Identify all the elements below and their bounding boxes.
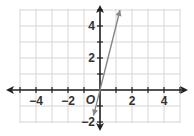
y-tick-label: −2 — [81, 115, 95, 129]
y-tick-label: 4 — [88, 19, 95, 33]
line-arrow-up-icon — [116, 10, 122, 17]
coordinate-plane: −4−22442−2O — [0, 0, 194, 136]
x-tick-label: −2 — [61, 94, 75, 108]
x-tick-label: −4 — [29, 94, 43, 108]
y-tick-label: 2 — [88, 51, 95, 65]
x-tick-label: 4 — [161, 94, 168, 108]
axes — [6, 5, 188, 131]
x-tick-label: 2 — [129, 94, 136, 108]
origin-label: O — [86, 93, 96, 107]
